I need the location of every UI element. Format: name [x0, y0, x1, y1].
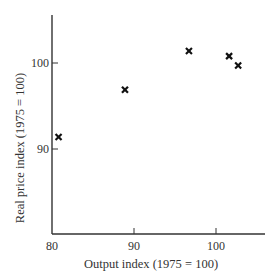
x-tick-label: 100	[207, 239, 225, 253]
ticks: 809010090100	[31, 56, 225, 253]
x-marker-icon	[226, 53, 232, 59]
x-marker-icon	[235, 63, 241, 69]
x-marker-icon	[56, 134, 62, 140]
x-axis-label: Output index (1975 = 100)	[84, 257, 218, 271]
y-tick-label: 90	[37, 142, 49, 156]
x-marker-icon	[122, 87, 128, 93]
x-tick-label: 90	[128, 239, 140, 253]
scatter-chart: 809010090100 Output index (1975 = 100) R…	[0, 0, 277, 280]
axes	[52, 15, 265, 234]
y-tick-label: 100	[31, 56, 49, 70]
x-marker-icon	[186, 48, 192, 54]
data-points	[56, 48, 242, 140]
x-tick-label: 80	[46, 239, 58, 253]
y-axis-label: Real price index (1975 = 100)	[13, 73, 27, 223]
